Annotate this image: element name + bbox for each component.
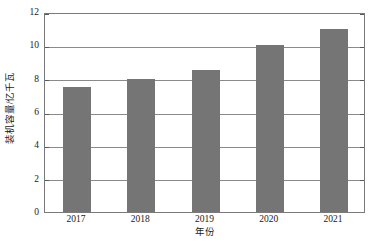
y-tick-label: 2 — [34, 175, 39, 185]
y-tick-label: 10 — [30, 42, 40, 52]
bar-chart: 装机容量/亿千瓦 024681012 20172018201920202021 … — [0, 0, 383, 245]
y-tick-label: 8 — [34, 75, 39, 85]
bar — [63, 87, 91, 212]
y-tick-label: 0 — [34, 208, 39, 218]
x-tick-label: 2019 — [195, 215, 214, 225]
plot-area — [44, 13, 365, 213]
y-axis-title-text: 装机容量/亿千瓦 — [2, 71, 16, 144]
x-tick-label: 2020 — [259, 215, 278, 225]
bar — [192, 70, 220, 212]
x-tick-label: 2021 — [323, 215, 342, 225]
bars-layer — [45, 14, 364, 212]
y-tick-label: 12 — [30, 8, 40, 18]
y-tick-label: 4 — [34, 142, 39, 152]
bar — [127, 79, 155, 212]
bar — [320, 29, 348, 212]
y-axis-tick-labels: 024681012 — [18, 0, 42, 245]
y-axis-title: 装机容量/亿千瓦 — [0, 0, 18, 215]
x-tick-label: 2017 — [67, 215, 86, 225]
x-tick-label: 2018 — [131, 215, 150, 225]
x-axis-title: 年份 — [44, 228, 365, 238]
y-tick-label: 6 — [34, 108, 39, 118]
bar — [256, 45, 284, 212]
